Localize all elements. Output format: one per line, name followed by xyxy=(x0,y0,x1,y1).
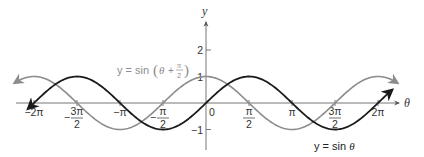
svg-text:2: 2 xyxy=(246,118,252,130)
y-tick-label: −1 xyxy=(191,124,203,136)
y-ticks: 21−1 xyxy=(191,44,211,136)
shifted-eq-plus: + xyxy=(168,65,174,76)
shifted-sine-label: y = sin ( θ + π 2 ) xyxy=(117,61,189,80)
x-tick-label: π xyxy=(288,106,295,118)
sin-eq-prefix: y = sin xyxy=(314,140,346,152)
svg-text:−: − xyxy=(64,111,70,123)
sine-label: y = sin θ xyxy=(314,140,355,152)
shifted-eq-num: π xyxy=(177,61,181,70)
sin-eq-theta: θ xyxy=(349,140,355,152)
shifted-eq-theta: θ xyxy=(159,64,165,76)
paren-close: ) xyxy=(184,62,189,79)
svg-text:2: 2 xyxy=(74,118,80,130)
svg-text:−2π: −2π xyxy=(24,106,43,118)
svg-text:2: 2 xyxy=(160,118,166,130)
svg-text:y = sin: y = sin xyxy=(117,64,149,76)
x-tick-label: 0 xyxy=(209,106,215,118)
x-tick-label: −3π2 xyxy=(64,105,84,130)
svg-text:π: π xyxy=(245,105,252,117)
paren-open: ( xyxy=(153,62,158,79)
x-tick-label: 3π2 xyxy=(328,105,341,130)
x-tick-label: π2 xyxy=(243,105,255,130)
x-axis-label: θ xyxy=(404,96,410,110)
svg-text:2: 2 xyxy=(332,118,338,130)
x-tick-label: −π2 xyxy=(150,105,169,130)
x-tick-label: −2π xyxy=(24,106,43,118)
shifted-eq-den: 2 xyxy=(177,71,181,80)
svg-text:π: π xyxy=(288,106,295,118)
chart: −2π−3π2−π−π20π2π3π22π 21−1 y θ y = sin (… xyxy=(0,0,424,157)
svg-text:π: π xyxy=(159,105,166,117)
shifted-eq-prefix: y = sin xyxy=(117,64,149,76)
svg-text:y = sin θ: y = sin θ xyxy=(314,140,355,152)
svg-text:0: 0 xyxy=(209,106,215,118)
y-tick-label: 2 xyxy=(197,44,203,56)
y-axis-label: y xyxy=(201,4,208,18)
